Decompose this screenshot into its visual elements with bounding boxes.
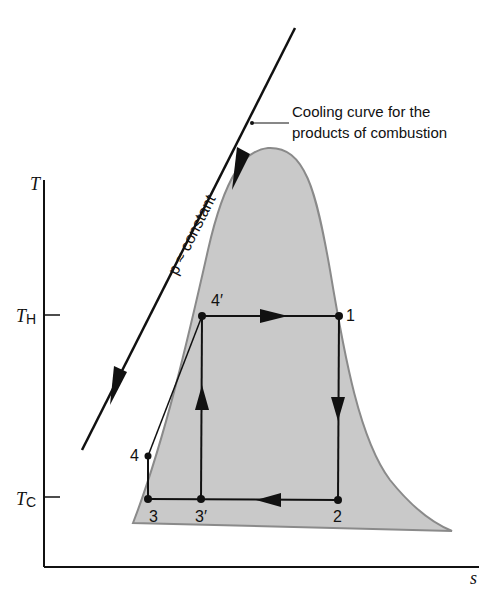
- label-2: 2: [333, 508, 342, 525]
- point-3p: [197, 495, 205, 503]
- y-axis-label: T: [30, 174, 42, 194]
- point-4p: [198, 312, 206, 320]
- vapor-dome: [133, 148, 452, 531]
- cooling-arrow-lower: [110, 366, 127, 405]
- annotation-line2: products of combustion: [292, 124, 447, 141]
- point-2: [334, 496, 342, 504]
- th-label: TH: [16, 306, 36, 327]
- point-1: [335, 312, 343, 320]
- diagram-canvas: T s TH TC Cooling curve for the products…: [0, 0, 503, 598]
- label-3p: 3′: [195, 508, 207, 525]
- tc-label: TC: [16, 489, 36, 510]
- label-1: 1: [346, 307, 355, 324]
- label-4: 4: [130, 447, 139, 464]
- line-2-3: [148, 499, 338, 500]
- x-axis-label: s: [470, 568, 477, 588]
- ts-diagram: T s TH TC Cooling curve for the products…: [0, 0, 503, 598]
- label-3: 3: [149, 508, 158, 525]
- point-4: [145, 453, 152, 460]
- point-3: [144, 495, 152, 503]
- label-4p: 4′: [211, 292, 223, 309]
- annotation-line1: Cooling curve for the: [292, 103, 430, 120]
